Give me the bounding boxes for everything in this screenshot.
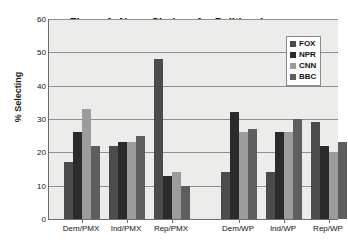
bar: [221, 172, 230, 219]
legend-item: CNN: [290, 61, 316, 71]
x-axis-tick-label: Rep/WP: [313, 224, 343, 233]
legend-item: BBC: [290, 72, 316, 82]
legend-item: FOX: [290, 39, 316, 49]
bar: [73, 132, 82, 219]
bar: [239, 132, 248, 219]
y-axis-tick-label: 60: [20, 15, 46, 24]
bar: [329, 152, 338, 219]
bar-group: [108, 19, 146, 219]
bar-group: [63, 19, 101, 219]
bar: [163, 176, 172, 219]
legend-swatch: [290, 52, 296, 58]
bar: [230, 112, 239, 219]
bar: [320, 146, 329, 219]
bar: [284, 132, 293, 219]
x-axis-tick: [284, 219, 285, 223]
x-axis-tick-label: Dem/WP: [222, 224, 254, 233]
legend-swatch: [290, 74, 296, 80]
bar: [109, 146, 118, 219]
chart-legend: FOXNPRCNNBBC: [286, 36, 321, 86]
bar: [338, 142, 347, 219]
bar-group: [153, 19, 191, 219]
y-axis-tick-label: 10: [20, 181, 46, 190]
legend-swatch: [290, 41, 296, 47]
bar-group: [220, 19, 258, 219]
x-axis-tick-label: Ind/PMX: [111, 224, 142, 233]
legend-label: FOX: [299, 40, 315, 48]
legend-label: BBC: [299, 73, 316, 81]
legend-item: NPR: [290, 50, 316, 60]
x-axis-tick-label: Ind/WP: [270, 224, 296, 233]
x-axis-tick: [329, 219, 330, 223]
legend-swatch: [290, 63, 296, 69]
bar: [293, 119, 302, 219]
legend-label: CNN: [299, 62, 316, 70]
x-axis-tick-label: Dem/PMX: [63, 224, 99, 233]
bar: [91, 146, 100, 219]
x-axis-tick-label: Rep/PMX: [154, 224, 188, 233]
bar: [82, 109, 91, 219]
bar: [172, 172, 181, 219]
bar: [181, 186, 190, 219]
x-axis-tick: [172, 219, 173, 223]
bar: [136, 136, 145, 219]
bar: [64, 162, 73, 219]
bar: [248, 129, 257, 219]
bar: [266, 172, 275, 219]
x-axis-tick: [239, 219, 240, 223]
bar: [154, 59, 163, 219]
legend-label: NPR: [299, 51, 316, 59]
bar: [311, 122, 320, 219]
x-axis-tick: [127, 219, 128, 223]
x-axis-tick-labels: Dem/PMXInd/PMXRep/PMXDem/WPInd/WPRep/WP: [48, 224, 337, 244]
bar: [118, 142, 127, 219]
y-axis-tick-label: 50: [20, 48, 46, 57]
y-axis-tick-label: 0: [20, 215, 46, 224]
y-axis-tick-label: 30: [20, 115, 46, 124]
bar: [275, 132, 284, 219]
bar: [127, 142, 136, 219]
y-axis-tick-label: 40: [20, 81, 46, 90]
y-axis-tick-label: 20: [20, 148, 46, 157]
x-axis-tick: [82, 219, 83, 223]
y-axis-tick-labels: 0102030405060: [20, 14, 46, 220]
